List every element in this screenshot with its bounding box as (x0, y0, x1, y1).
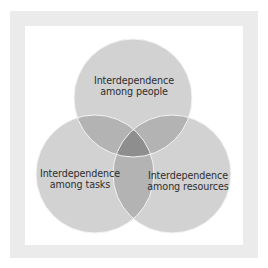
label-people-line2: among people (94, 87, 174, 98)
label-tasks-line2: among tasks (40, 180, 120, 191)
label-resources-line1: Interdependence (147, 171, 228, 182)
venn-diagram (0, 0, 268, 268)
label-tasks-line1: Interdependence (40, 169, 120, 180)
label-resources: Interdependence among resources (147, 171, 228, 192)
label-people-line1: Interdependence (94, 76, 174, 87)
label-people: Interdependence among people (94, 76, 174, 97)
label-tasks: Interdependence among tasks (40, 169, 120, 190)
label-resources-line2: among resources (147, 182, 228, 193)
